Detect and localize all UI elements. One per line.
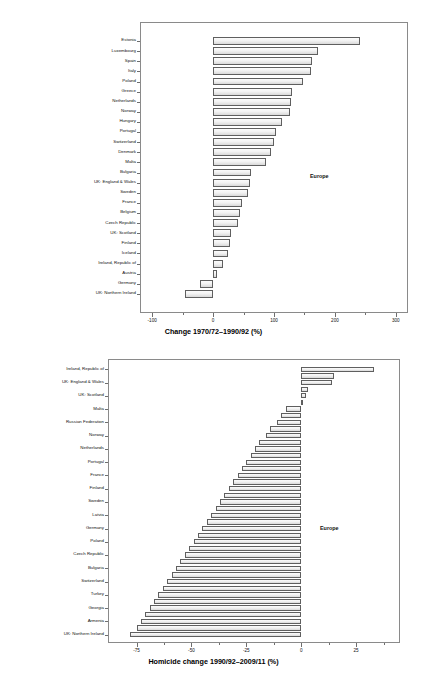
- x-tick-major: [191, 643, 192, 647]
- x-axis-title-top: Change 1970/72–1990/92 (%): [0, 327, 427, 336]
- x-tick-minor: [274, 643, 275, 645]
- x-tick-minor: [304, 313, 305, 315]
- x-tick-minor: [384, 643, 385, 645]
- x-tick-major: [137, 643, 138, 647]
- x-tick-major: [152, 313, 153, 317]
- x-axis-ticks-top: -1000100200300: [0, 0, 427, 345]
- x-tick-minor: [365, 313, 366, 315]
- x-tick-minor: [164, 643, 165, 645]
- x-tick-major: [301, 643, 302, 647]
- x-tick-label: -25: [243, 648, 250, 653]
- x-tick-major: [246, 643, 247, 647]
- x-tick-major: [396, 313, 397, 317]
- x-tick-label: -100: [148, 318, 157, 323]
- x-tick-label: 100: [270, 318, 278, 323]
- region-annotation-bottom: Europe: [320, 525, 339, 531]
- chart-panel-top: EstoniaLuxembourgSpainItalyPolandGreeceN…: [0, 0, 427, 345]
- x-tick-major: [335, 313, 336, 317]
- x-axis-title-bottom: Homicide change 1990/92–2009/11 (%): [0, 657, 427, 666]
- chart-panel-bottom: Ireland, Republic ofUK: England & WalesU…: [0, 345, 427, 686]
- x-tick-label: -50: [188, 648, 195, 653]
- x-tick-major: [274, 313, 275, 317]
- x-tick-label: 300: [392, 318, 400, 323]
- x-tick-major: [213, 313, 214, 317]
- x-tick-minor: [244, 313, 245, 315]
- x-tick-label: 0: [212, 318, 215, 323]
- x-tick-label: -75: [133, 648, 140, 653]
- x-axis-ticks-bottom: -75-50-25025: [0, 345, 427, 686]
- region-annotation-top: Europe: [310, 173, 329, 179]
- x-tick-label: 25: [354, 648, 359, 653]
- x-tick-minor: [183, 313, 184, 315]
- x-tick-minor: [329, 643, 330, 645]
- x-tick-label: 0: [300, 648, 303, 653]
- x-tick-major: [356, 643, 357, 647]
- x-tick-label: 200: [331, 318, 339, 323]
- x-tick-minor: [219, 643, 220, 645]
